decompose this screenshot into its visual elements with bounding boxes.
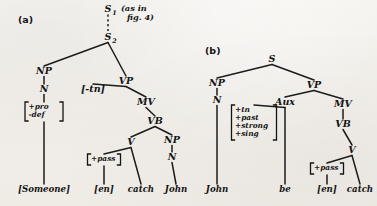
feature-matrix-aux-right-bracket: [274, 105, 277, 140]
feature-matrix-pass-b-right-bracket: [341, 163, 344, 174]
tree-node-np: NP: [35, 65, 53, 76]
tree-node-aux: Aux: [274, 96, 295, 107]
tree-edge-b_VB-to-b_V: [343, 130, 352, 146]
terminal-en: [en]: [317, 184, 337, 194]
tree-node-s2: S: [105, 31, 112, 42]
tree-node-[-tn]: [-tn]: [81, 83, 106, 94]
tree-node-np: NP: [208, 77, 226, 88]
tree-edge-a_S2-to-a_NP1: [44, 43, 108, 67]
feature-matrix-aux-feature: +sing: [235, 129, 259, 138]
terminal-john: John: [163, 184, 187, 194]
tree-node-vp: VP: [119, 75, 134, 86]
tree-edge-b_S-to-b_NP: [217, 65, 272, 79]
terminal-catch: catch: [128, 184, 154, 194]
terminal-catch: catch: [347, 184, 373, 194]
tree-node-np: NP: [163, 134, 181, 145]
tree-node-subscript: 2: [111, 37, 117, 45]
tree-node-v: V: [127, 136, 136, 147]
tree-node-n: N: [167, 151, 177, 162]
terminal-someone: [Someone]: [18, 184, 70, 194]
tree-edge-b_V-to-b_t_catch: [352, 156, 360, 185]
tree-node-mv: MV: [333, 98, 354, 109]
feature-matrix-pro-def-feature: -def: [29, 110, 47, 119]
feature-matrix-pass-b-feature: +pass: [314, 163, 339, 172]
panel-label-a: (a): [18, 14, 33, 25]
terminal-be: be: [279, 184, 291, 194]
feature-matrix-pass-feature: +pass: [91, 154, 116, 163]
tree-node-vb: VB: [335, 118, 350, 129]
figure-canvas: S1S2NPNVP[-tn]MVVBVNPN+pro-def+pass[Some…: [0, 0, 377, 206]
tree-node-n: N: [39, 83, 49, 94]
tree-edge-a_V-to-a_t_catch: [131, 148, 141, 185]
syntax-tree-figure: S1S2NPNVP[-tn]MVVBVNPN+pro-def+pass[Some…: [0, 0, 377, 206]
feature-matrix-pass-right-bracket: [118, 154, 121, 165]
tree-edge-a_S2-to-a_VP: [108, 43, 126, 77]
tree-node-vp: VP: [307, 79, 322, 90]
tree-node-vb: VB: [147, 115, 162, 126]
tree-node-v: V: [348, 144, 357, 155]
fig-reference-note-line: fig. 4): [126, 12, 154, 22]
feature-matrix-pro-def-right-bracket: [60, 102, 63, 121]
panel-label-b: (b): [205, 45, 220, 56]
tree-edge-a_N2-to-a_t_john: [172, 163, 176, 185]
tree-node-s: S: [269, 53, 276, 64]
tree-labels-layer: S1S2NPNVP[-tn]MVVBVNPN+pro-def+pass[Some…: [18, 3, 373, 194]
tree-node-n: N: [212, 94, 222, 105]
tree-edge-b_S-to-b_VP: [272, 65, 314, 81]
tree-node-subscript: 1: [112, 9, 116, 17]
terminal-john: John: [204, 184, 228, 194]
tree-node-mv: MV: [136, 96, 157, 107]
tree-node-s1: S: [105, 3, 112, 14]
terminal-en: [en]: [94, 184, 114, 194]
